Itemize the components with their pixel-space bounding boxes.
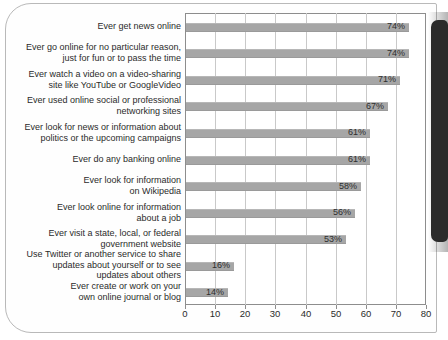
category-label: Ever visit a state, local, or federal go… xyxy=(5,228,181,249)
x-tick-label: 0 xyxy=(173,308,197,319)
category-label: Ever look for news or information about … xyxy=(5,122,181,143)
category-label: Ever get news online xyxy=(5,21,181,32)
category-label: Ever create or work on your own online j… xyxy=(5,281,181,302)
bar-value-label: 71% xyxy=(378,74,396,84)
bar-value-label: 14% xyxy=(206,287,224,297)
bar xyxy=(186,129,370,138)
bar-value-label: 61% xyxy=(348,127,366,137)
x-tick-label: 30 xyxy=(263,308,287,319)
bar xyxy=(186,102,388,111)
category-label: Ever look online for information about a… xyxy=(5,202,181,223)
bar-value-label: 53% xyxy=(324,234,342,244)
x-tick-label: 80 xyxy=(414,308,438,319)
bar xyxy=(186,76,400,85)
bar-value-label: 61% xyxy=(348,154,366,164)
x-tick-label: 40 xyxy=(294,308,318,319)
bar xyxy=(186,209,355,218)
category-label: Ever watch a video on a video-sharing si… xyxy=(5,69,181,90)
x-tick-label: 60 xyxy=(354,308,378,319)
x-tick-label: 50 xyxy=(324,308,348,319)
bar xyxy=(186,49,409,58)
bar-value-label: 56% xyxy=(333,207,351,217)
x-tick-label: 20 xyxy=(233,308,257,319)
bar-chart: 74%74%71%67%61%61%58%56%53%16%14% Ever g… xyxy=(0,0,448,340)
category-label: Ever go online for no particular reason,… xyxy=(5,42,181,63)
bar xyxy=(186,23,409,32)
bar xyxy=(186,235,346,244)
bar-value-label: 74% xyxy=(387,48,405,58)
x-tick-label: 10 xyxy=(203,308,227,319)
bar-value-label: 67% xyxy=(366,101,384,111)
category-label: Ever look for information on Wikipedia xyxy=(5,175,181,196)
bar xyxy=(186,182,361,191)
bar-value-label: 58% xyxy=(339,181,357,191)
category-label: Ever used online social or professional … xyxy=(5,95,181,116)
bar xyxy=(186,156,370,165)
category-label: Ever do any banking online xyxy=(5,154,181,165)
category-label: Use Twitter or another service to share … xyxy=(5,249,181,281)
bar-value-label: 16% xyxy=(212,260,230,270)
bar-value-label: 74% xyxy=(387,21,405,31)
x-tick-label: 70 xyxy=(384,308,408,319)
